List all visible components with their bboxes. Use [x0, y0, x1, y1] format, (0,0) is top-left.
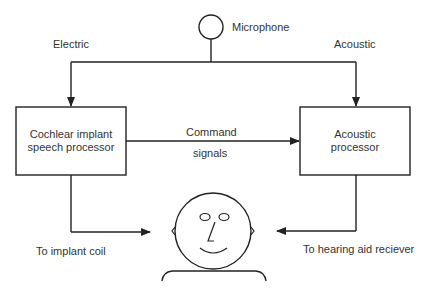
signals-label: signals — [193, 148, 227, 159]
command-label: Command — [186, 127, 237, 138]
electric-label: Electric — [53, 39, 89, 50]
acoustic-label: Acoustic — [334, 39, 376, 50]
implant-coil-label: To implant coil — [36, 246, 106, 257]
acoustic-processor-line1: Acoustic — [300, 128, 410, 141]
hearing-aid-label: To hearing aid reciever — [303, 244, 414, 255]
microphone-icon — [199, 15, 223, 62]
shoulders — [162, 271, 266, 281]
person-head-icon — [162, 193, 266, 281]
hearing-aid-arrow — [277, 175, 356, 231]
microphone-label: Microphone — [232, 22, 289, 33]
cochlear-processor-line2: speech processor — [16, 141, 126, 154]
split-lines — [71, 62, 356, 106]
cochlear-processor-label: Cochlear implant speech processor — [16, 128, 126, 154]
implant-coil-arrow — [71, 175, 150, 232]
acoustic-processor-label: Acoustic processor — [300, 128, 410, 154]
cochlear-processor-line1: Cochlear implant — [16, 128, 126, 141]
acoustic-processor-line2: processor — [300, 141, 410, 154]
